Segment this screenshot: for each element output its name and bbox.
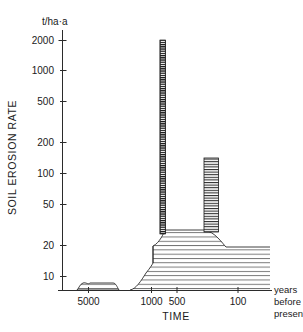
data-regions: [77, 40, 270, 290]
chart-canvas: t/ha·a: [0, 0, 303, 332]
y-axis-title: SOIL EROSION RATE: [6, 100, 18, 215]
y-tick-label: 100: [37, 168, 54, 179]
x-tick-label: 1000: [140, 296, 163, 307]
y-tick-label: 50: [43, 199, 55, 210]
y-axis-ticks: 2000 1000 500 200 100 50: [32, 35, 67, 282]
x-axis-note: years before present: [274, 284, 303, 319]
y-tick-label: 2000: [32, 35, 55, 46]
region-secondary-peak: [204, 158, 219, 232]
x-axis-note-line-1: years: [274, 284, 297, 295]
y-tick-label: 10: [43, 271, 55, 282]
y-tick-label: 500: [37, 96, 54, 107]
x-axis-note-line-2: before: [274, 296, 301, 307]
region-main-erosion-body: [130, 230, 270, 290]
region-early-holocene: [77, 283, 119, 290]
y-tick-label: 20: [43, 240, 55, 251]
x-axis-title: TIME: [162, 310, 189, 322]
y-axis-unit-label: t/ha·a: [42, 16, 68, 27]
y-tick-label: 200: [37, 137, 54, 148]
x-tick-label: 100: [230, 296, 247, 307]
x-axis-note-line-3: present: [274, 308, 303, 319]
x-tick-label: 500: [169, 296, 186, 307]
y-tick-2000: 2000: [32, 35, 67, 46]
region-main-spike: [160, 40, 166, 234]
y-tick-1000: 1000: [32, 65, 67, 76]
x-tick-label: 5000: [77, 296, 100, 307]
y-tick-label: 1000: [32, 65, 55, 76]
soil-erosion-rate-chart: t/ha·a: [0, 0, 303, 332]
